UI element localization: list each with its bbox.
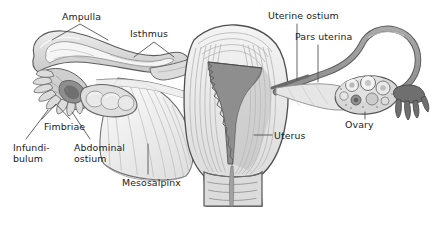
label-mesosalpinx: Mesosalpinx	[122, 178, 181, 189]
label-fimbriae: Fimbriae	[44, 122, 85, 133]
label-uterine-ostium: Uterine ostium	[268, 11, 339, 22]
label-isthmus: Isthmus	[130, 29, 168, 40]
label-uterus: Uterus	[274, 131, 306, 142]
label-pars-uterina: Pars uterina	[295, 32, 352, 43]
label-ovary: Ovary	[345, 120, 374, 131]
label-infundibulum: Infundi-bulum	[13, 143, 50, 164]
anatomy-figure: Ampulla Isthmus Uterine ostium Pars uter…	[0, 0, 442, 225]
anatomy-illustration	[0, 0, 442, 225]
label-abdominal-ostium: Abdominalostium	[74, 143, 125, 164]
cervical-canal	[229, 166, 233, 206]
label-ampulla: Ampulla	[62, 12, 101, 23]
